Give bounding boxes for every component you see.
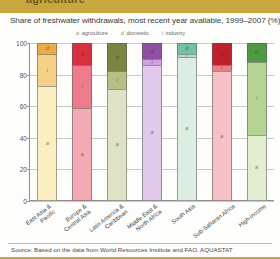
section-banner: agriculture <box>0 0 280 13</box>
bar-segment-i[interactable]: i <box>37 54 57 86</box>
bar-slot: dia <box>100 43 135 201</box>
bar-segment-label: i <box>256 96 257 101</box>
stacked-bar[interactable]: dia <box>177 43 197 201</box>
x-label-slot: High-income <box>239 203 274 243</box>
legend-label: agriculture <box>82 30 108 36</box>
x-axis-tick-label-line: High-income <box>237 203 268 229</box>
legend-label: industry <box>166 30 186 36</box>
bar-segment-label: a <box>151 130 154 135</box>
x-axis-tick-label: East Asia &Pacific <box>25 203 58 233</box>
stacked-bar[interactable]: dia <box>107 43 127 201</box>
bar-segment-label: i <box>82 84 83 89</box>
stacked-bar[interactable]: dia <box>212 43 232 201</box>
bar-slot: dia <box>65 43 100 201</box>
bar-slot: dia <box>239 43 274 201</box>
legend-item-industry: iindustry <box>162 30 185 36</box>
x-label-slot: Middle East &North Africa <box>135 203 170 243</box>
bar-segment-i[interactable]: i <box>107 71 127 88</box>
stacked-bar[interactable]: dia <box>37 43 57 201</box>
legend-key: a <box>76 30 79 36</box>
bar-segment-label: a <box>220 134 223 139</box>
legend-key: i <box>162 30 163 36</box>
source-note: Source: Based on the data from World Res… <box>11 246 232 253</box>
source-divider <box>8 243 272 244</box>
stacked-bar[interactable]: dia <box>247 43 267 201</box>
x-axis-tick-label-line: South Asia <box>170 203 197 226</box>
bar-segment-label: i <box>47 68 48 73</box>
x-axis-tick-label: High-income <box>237 203 268 229</box>
chart-title: Share of freshwater withdrawals, most re… <box>10 16 276 25</box>
bar-segment-a[interactable]: a <box>177 57 197 201</box>
x-axis-tick-label: Europe &Central Asia <box>59 203 93 234</box>
y-tick-label: 40 <box>20 134 27 141</box>
bar-segment-i[interactable]: i <box>72 65 92 108</box>
y-tick-label: 20 <box>20 166 27 173</box>
plot-area: 020406080100 diadiadiadiadiadiadia <box>30 43 274 201</box>
x-axis-labels: East Asia &PacificEurope &Central AsiaLa… <box>30 203 274 243</box>
bar-segment-a[interactable]: a <box>72 108 92 201</box>
legend-label: domestic <box>126 30 148 36</box>
banner-label: agriculture <box>26 0 85 5</box>
bar-segment-label: a <box>46 141 49 146</box>
bar-segment-a[interactable]: a <box>107 89 127 201</box>
bar-segment-d[interactable]: d <box>72 43 92 65</box>
chart-page: agriculture Share of freshwater withdraw… <box>0 0 280 259</box>
bar-segment-label: d <box>116 55 119 60</box>
y-tick-label: 80 <box>20 71 27 78</box>
legend-key: d <box>121 30 124 36</box>
x-axis-tick-label: South Asia <box>170 203 197 226</box>
gridline <box>30 201 274 202</box>
bar-segment-label: d <box>81 52 84 57</box>
bar-segment-label: a <box>81 152 84 157</box>
y-tick-label: 60 <box>20 103 27 110</box>
bar-slot: dia <box>169 43 204 201</box>
bar-segment-label: d <box>255 50 258 55</box>
bar-slot: dia <box>135 43 170 201</box>
legend-item-agriculture: aagriculture <box>76 30 108 36</box>
bar-segment-a[interactable]: a <box>247 135 267 201</box>
bar-segment-d[interactable]: d <box>247 43 267 62</box>
legend-item-domestic: ddomestic <box>121 30 149 36</box>
bar-segment-label: a <box>255 165 258 170</box>
bar-segment-d[interactable]: d <box>37 43 57 54</box>
bar-slot: dia <box>204 43 239 201</box>
bar-segment-label: a <box>116 142 119 147</box>
bar-segment-d[interactable]: d <box>177 43 197 54</box>
bar-segment-a[interactable]: a <box>212 71 232 201</box>
bar-segment-d[interactable]: d <box>142 43 162 59</box>
bar-segment-a[interactable]: a <box>37 86 57 201</box>
bar-segment-d[interactable]: d <box>107 43 127 71</box>
bar-segment-d[interactable]: d <box>212 43 232 65</box>
y-tick-label: 100 <box>16 40 27 47</box>
y-tick-mark <box>27 201 30 202</box>
bar-segment-i[interactable]: i <box>247 62 267 135</box>
bar-segment-label: a <box>185 126 188 131</box>
bar-group: diadiadiadiadiadiadia <box>30 43 274 201</box>
bar-segment-label: d <box>46 46 49 51</box>
chart-legend: aagricultureddomesticiindustry <box>76 30 185 36</box>
x-label-slot: Sub-Saharan Africa <box>204 203 239 243</box>
stacked-bar[interactable]: dia <box>142 43 162 201</box>
bar-segment-label: d <box>185 46 188 51</box>
bar-segment-a[interactable]: a <box>142 65 162 201</box>
bar-slot: dia <box>30 43 65 201</box>
stacked-bar[interactable]: dia <box>72 43 92 201</box>
bar-segment-label: d <box>220 52 223 57</box>
bar-segment-label: d <box>151 49 154 54</box>
bar-segment-label: i <box>117 78 118 83</box>
